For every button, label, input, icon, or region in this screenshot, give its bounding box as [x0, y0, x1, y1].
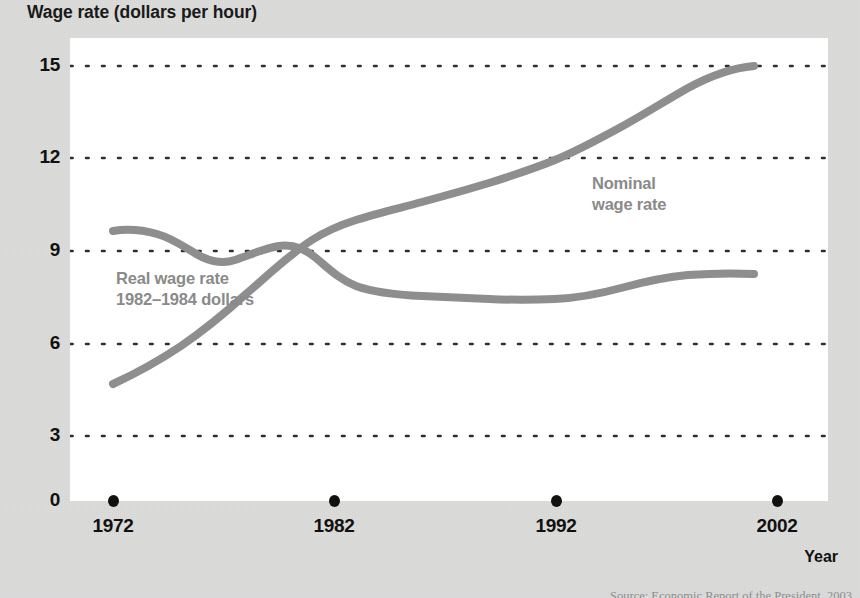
ytick-label-15: 15	[12, 54, 60, 76]
ytick-label-12: 12	[12, 146, 60, 168]
xtick-label-1972: 1972	[68, 515, 158, 537]
series-line-nominal	[113, 66, 754, 384]
series-annotation-real: Real wage rate 1982–1984 dollars	[116, 268, 254, 310]
x-axis-title: Year	[804, 548, 838, 566]
xtick-label-2002: 2002	[732, 515, 822, 537]
series-annotation-nominal: Nominal wage rate	[592, 173, 666, 215]
series-annotation-real-line2: 1982–1984 dollars	[116, 289, 254, 310]
xtick-label-1992: 1992	[511, 515, 601, 537]
ytick-label-3: 3	[12, 424, 60, 446]
xtick-dot-2002	[772, 495, 783, 507]
xtick-dot-1982	[329, 495, 340, 507]
xtick-dot-1972	[108, 495, 119, 507]
series-annotation-real-line1: Real wage rate	[116, 268, 254, 289]
series-annotation-nominal-line1: Nominal	[592, 173, 666, 194]
xtick-dot-1992	[551, 495, 562, 507]
xtick-label-1982: 1982	[289, 515, 379, 537]
series-annotation-nominal-line2: wage rate	[592, 194, 666, 215]
page-title: Wage rate (dollars per hour)	[27, 2, 257, 23]
ytick-label-9: 9	[12, 239, 60, 261]
source-note: Source: Economic Report of the President…	[610, 589, 852, 598]
ytick-label-6: 6	[12, 332, 60, 354]
ytick-label-0: 0	[12, 489, 60, 511]
